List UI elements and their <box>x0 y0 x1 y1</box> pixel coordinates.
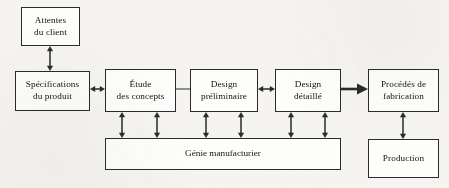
node-production: Production <box>368 139 439 178</box>
node-label: Design préliminaire <box>199 79 249 102</box>
node-label: Attentes du client <box>32 15 69 38</box>
connector-etude-genie-left <box>119 112 125 138</box>
connector-prelim-genie-right <box>238 112 244 138</box>
node-label: Génie manufacturier <box>185 148 261 160</box>
node-label: Production <box>381 153 426 165</box>
node-procedes-de-fabrication: Procédés de fabrication <box>368 69 439 112</box>
connector-prelim-genie-left <box>203 112 209 138</box>
connector-detaille-procedes <box>341 83 368 94</box>
node-specifications-du-produit: Spécifications du produit <box>15 71 90 111</box>
node-attentes-du-client: Attentes du client <box>21 7 80 46</box>
node-label: Design détaillé <box>292 79 324 102</box>
diagram-canvas: Attentes du client Spécifications du pro… <box>0 0 449 188</box>
connector-prelim-detaille <box>258 86 275 92</box>
connector-specs-etude <box>90 86 105 92</box>
connector-procedes-production <box>400 112 406 139</box>
node-label: Étude des concepts <box>115 79 167 102</box>
connector-detaille-genie-left <box>288 112 294 138</box>
connector-detaille-genie-right <box>322 112 328 138</box>
node-label: Procédés de fabrication <box>379 79 428 102</box>
connector-etude-genie-right <box>154 112 160 138</box>
node-design-detaille: Design détaillé <box>275 69 341 112</box>
node-design-preliminaire: Design préliminaire <box>190 69 258 112</box>
node-label: Spécifications du produit <box>24 79 81 102</box>
node-genie-manufacturier: Génie manufacturier <box>105 138 341 170</box>
node-etude-des-concepts: Étude des concepts <box>105 69 176 112</box>
connector-attentes-specs <box>47 46 53 71</box>
